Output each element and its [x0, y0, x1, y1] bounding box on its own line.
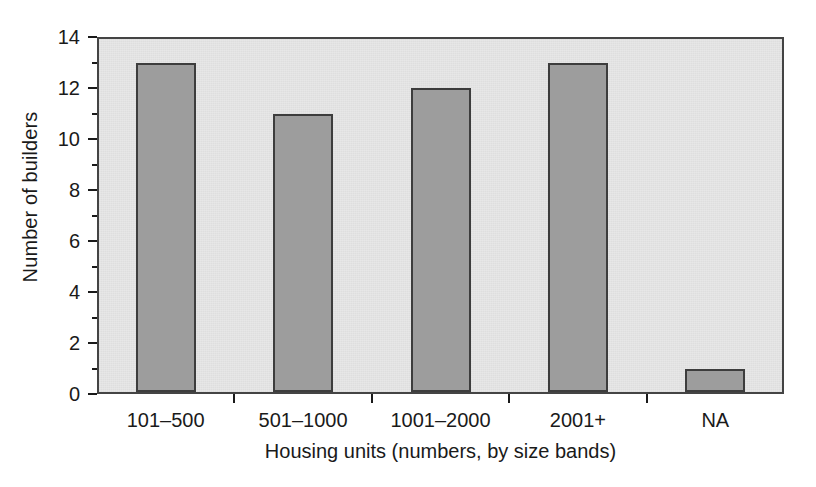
y-tick-major — [88, 342, 97, 344]
x-tick — [233, 394, 235, 403]
y-tick-label: 2 — [48, 333, 80, 353]
y-tick-label: 6 — [48, 231, 80, 251]
y-axis-title-text: Number of builders — [19, 112, 42, 283]
y-tick-label: 14 — [48, 27, 80, 47]
bar-101–500 — [136, 63, 196, 393]
y-tick-major — [88, 291, 97, 293]
y-tick-label: 0 — [48, 384, 80, 404]
x-tick-label: NA — [701, 408, 729, 432]
x-axis-tick-marks — [97, 394, 784, 406]
plot-area — [97, 37, 784, 394]
y-tick-label: 4 — [48, 282, 80, 302]
y-tick-label: 12 — [48, 78, 80, 98]
y-tick-major — [88, 240, 97, 242]
bar-501–1000 — [273, 114, 333, 393]
y-tick-major — [88, 36, 97, 38]
y-tick-major — [88, 189, 97, 191]
x-axis-title: Housing units (numbers, by size bands) — [97, 440, 784, 463]
bar-chart-figure: Number of builders 02468101214 101–50050… — [0, 0, 816, 487]
y-tick-label: 8 — [48, 180, 80, 200]
x-tick-label: 101–500 — [127, 408, 205, 432]
y-axis-tick-marks — [84, 0, 97, 487]
y-tick-major — [88, 87, 97, 89]
x-tick — [508, 394, 510, 403]
y-tick-major — [88, 393, 97, 395]
x-axis-tick-labels: 101–500501–10001001–20002001+NA — [97, 408, 784, 436]
x-tick — [371, 394, 373, 403]
bar-2001+ — [548, 63, 608, 393]
y-axis-tick-labels: 02468101214 — [48, 0, 80, 487]
x-tick-label: 1001–2000 — [390, 408, 490, 432]
bar-1001–2000 — [411, 88, 471, 392]
y-tick-label: 10 — [48, 129, 80, 149]
x-tick — [646, 394, 648, 403]
x-tick-label: 501–1000 — [259, 408, 348, 432]
y-tick-major — [88, 138, 97, 140]
bar-NA — [685, 369, 745, 393]
x-tick-label: 2001+ — [550, 408, 606, 432]
